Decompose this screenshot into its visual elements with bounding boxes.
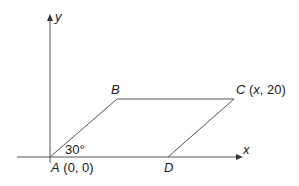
vertex-c-label: C (x, 20) — [236, 82, 286, 97]
diagram-svg: y x B C (x, 20) A (0, 0) D 30° — [0, 0, 299, 186]
vertex-d-label: D — [164, 160, 173, 175]
vertex-b-label: B — [111, 82, 120, 97]
y-axis-label: y — [54, 9, 63, 24]
vertex-a-label: A (0, 0) — [50, 160, 94, 175]
x-axis-arrow-icon — [236, 154, 243, 160]
y-axis-arrow-icon — [47, 14, 53, 21]
parallelogram-diagram: y x B C (x, 20) A (0, 0) D 30° — [0, 0, 299, 186]
x-axis-label: x — [242, 142, 250, 157]
angle-label: 30° — [65, 142, 85, 157]
side-cd — [168, 99, 234, 157]
